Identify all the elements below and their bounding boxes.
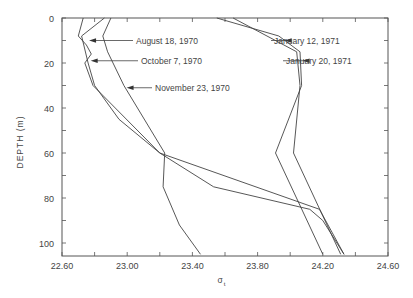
- y-axis-ticks: 020406080100: [39, 14, 388, 249]
- x-tick-label: 23.00: [116, 261, 139, 271]
- series-line: [217, 18, 323, 254]
- y-tick-label: 40: [44, 104, 54, 114]
- series-label: October 7, 1970: [141, 56, 202, 66]
- arrow-icon: [127, 86, 134, 90]
- y-tick-label: 20: [44, 59, 54, 69]
- x-tick-label: 24.60: [377, 261, 400, 271]
- plot-frame: [62, 18, 388, 256]
- x-axis-title: σt: [218, 275, 227, 287]
- series-line: [103, 18, 201, 254]
- x-axis-title-subscript: t: [224, 281, 227, 287]
- arrow-icon: [89, 38, 96, 42]
- x-tick-label: 24.20: [312, 261, 335, 271]
- y-tick-label: 80: [44, 194, 54, 204]
- series-line: [233, 18, 341, 254]
- series-label: January 20, 1971: [286, 56, 352, 66]
- series-annotations: August 18, 1970October 7, 1970November 2…: [89, 36, 352, 93]
- y-axis-title: DEPTH (m): [15, 116, 25, 169]
- y-tick-label: 60: [44, 149, 54, 159]
- x-tick-label: 22.60: [51, 261, 74, 271]
- series-label: November 23, 1970: [155, 83, 230, 93]
- series-line: [82, 18, 344, 254]
- series-label: January 12, 1971: [274, 36, 340, 46]
- y-tick-label: 0: [49, 14, 54, 24]
- series-lines: [78, 18, 344, 254]
- y-tick-label: 100: [39, 239, 54, 249]
- arrow-icon: [91, 59, 98, 63]
- series-label: August 18, 1970: [136, 36, 198, 46]
- sigma-t-depth-chart: 22.6023.0023.4023.8024.2024.60 020406080…: [0, 0, 413, 298]
- x-tick-label: 23.40: [181, 261, 204, 271]
- series-line: [78, 18, 344, 254]
- x-tick-label: 23.80: [246, 261, 269, 271]
